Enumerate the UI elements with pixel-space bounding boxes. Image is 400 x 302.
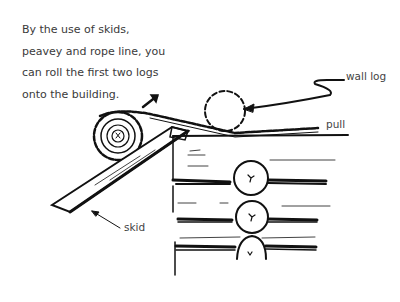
log-rolling-illustration <box>0 0 400 302</box>
pull-label: pull <box>326 118 345 130</box>
wall-log-label: wall log <box>346 70 386 82</box>
skid <box>52 127 188 212</box>
wall-log-target <box>205 91 245 131</box>
wall-log-ends <box>234 161 268 259</box>
skid-label: skid <box>124 221 145 233</box>
wall-log-leader <box>244 80 344 109</box>
